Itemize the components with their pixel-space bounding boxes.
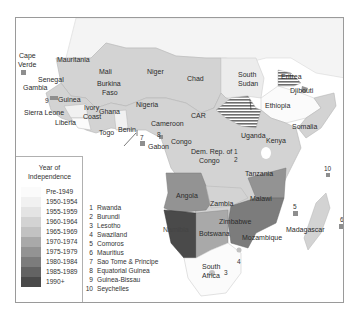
label-ivory-coast: Ivory: [84, 104, 99, 112]
label-kenya: Kenya: [266, 137, 286, 145]
legend-item: Pre-1949: [21, 187, 81, 197]
label-burkina-faso: Burkina: [97, 80, 121, 88]
label-somalia: Somalia: [292, 123, 317, 131]
label-chad: Chad: [187, 75, 204, 83]
label-south-sudan: South: [238, 71, 256, 79]
legend-swatch: [21, 257, 41, 267]
key-item: 4Swaziland: [83, 230, 127, 239]
label-mali: Mali: [99, 68, 112, 76]
key-item: 10Seychelles: [83, 284, 129, 293]
legend-item: 1950-1954: [21, 197, 81, 207]
legend-swatch: [21, 227, 41, 237]
key-item: 9Guinea-Bissau: [83, 275, 140, 284]
legend-swatch: [21, 267, 41, 277]
label-congo: Congo: [171, 138, 192, 146]
label-cape-verde-2: Verde: [18, 61, 36, 69]
label-ghana: Ghana: [99, 108, 120, 116]
label-madagascar: Madagascar: [286, 226, 325, 234]
legend-swatch: [21, 247, 41, 257]
label-senegal: Senegal: [38, 76, 64, 84]
label-ethiopia: Ethiopia: [265, 102, 290, 110]
label-uganda: Uganda: [241, 132, 266, 140]
key-item: 3Lesotho: [83, 221, 120, 230]
legend-swatch: [21, 217, 41, 227]
legend-swatch: [21, 277, 41, 287]
label-liberia: Liberia: [55, 119, 76, 127]
key-item: 2Burundi: [83, 212, 120, 221]
label-car: CAR: [191, 112, 206, 120]
mauritius-marker: [339, 224, 344, 229]
cape-verde-marker: [21, 70, 26, 75]
label-south-africa: South: [202, 263, 220, 271]
map-number-9: 9: [45, 97, 49, 104]
comoros-marker: [293, 211, 298, 216]
map-number-8: 8: [157, 131, 161, 138]
label-cape-verde: Cape: [19, 52, 36, 60]
guinea-bissau-marker: [50, 96, 58, 100]
label-gambia: Gambia: [23, 84, 48, 92]
map-number-1: 1: [234, 148, 238, 155]
label-malawi: Malawi: [250, 195, 272, 203]
legend-item: 1985-1989: [21, 267, 81, 277]
label-drc: Dem. Rep. of: [191, 148, 232, 156]
label-djibouti: Djibouti: [290, 87, 313, 95]
map-number-4: 4: [237, 258, 241, 265]
label-eritrea: Eritrea: [281, 73, 302, 81]
label-zambia: Zambia: [210, 200, 233, 208]
key-item: 1Rwanda: [83, 203, 121, 212]
label-guinea: Guinea: [58, 96, 81, 104]
label-togo: Togo: [99, 129, 114, 137]
legend-item: 1970-1974: [21, 237, 81, 247]
legend-item: 1980-1984: [21, 257, 81, 267]
label-botswana: Botswana: [199, 230, 230, 238]
map-number-3: 3: [224, 269, 228, 276]
label-angola: Angola: [176, 192, 198, 200]
legend-item: 1975-1979: [21, 247, 81, 257]
map-number-7: 7: [140, 134, 144, 141]
key-item: 7Sao Tome & Principe: [83, 257, 158, 266]
label-niger: Niger: [147, 68, 164, 76]
label-drc-2: Congo: [199, 157, 220, 165]
label-nigeria: Nigeria: [136, 101, 158, 109]
label-zimbabwe: Zimbabwe: [219, 218, 251, 226]
label-gabon: Gabon: [148, 143, 169, 151]
label-cameroon: Cameroon: [151, 120, 184, 128]
map-number-10: 10: [324, 165, 331, 172]
legend-title: Year of Independence: [16, 163, 83, 181]
map-number-6: 6: [340, 216, 344, 223]
key-item: 8Equatorial Guinea: [83, 266, 150, 275]
seychelles-marker: [326, 173, 330, 177]
map-number-2: 2: [234, 156, 238, 163]
label-sierra-leone: Sierra Leone: [24, 109, 64, 117]
sao-tome-marker: [140, 141, 145, 146]
legend-swatch: [21, 187, 41, 197]
map-number-5: 5: [293, 203, 297, 210]
label-mauritania: Mauritania: [57, 56, 90, 64]
legend-item: 1965-1969: [21, 227, 81, 237]
label-south-africa-2: Africa: [202, 272, 220, 280]
legend-item: 1960-1964: [21, 217, 81, 227]
label-namibia: Namibia: [163, 226, 189, 234]
legend-item: 1990+: [21, 277, 81, 287]
label-burkina-faso-2: Faso: [102, 89, 118, 97]
legend-swatch: [21, 237, 41, 247]
label-benin: Benin: [118, 126, 136, 134]
map-frame: Cape Verde Mauritania Mali Niger Chad Se…: [15, 17, 344, 303]
legend-swatch: [21, 207, 41, 217]
legend-swatch: [21, 197, 41, 207]
label-south-sudan-2: Sudan: [238, 80, 258, 88]
key-item: 6Mauritius: [83, 248, 124, 257]
key-item: 5Comoros: [83, 239, 124, 248]
label-tanzania: Tanzania: [245, 170, 273, 178]
label-mozambique: Mozambique: [242, 234, 282, 242]
legend-item: 1955-1959: [21, 207, 81, 217]
legend: Year of Independence Pre-1949 1950-1954 …: [16, 156, 83, 303]
